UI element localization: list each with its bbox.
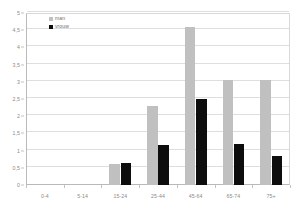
- bar-man-45-64: [185, 27, 196, 185]
- bar-vrouw-65-74: [234, 144, 245, 185]
- y-tick-mark: [21, 13, 24, 14]
- x-axis: 0-45-1415-2425-4445-6465-7475+: [26, 185, 290, 205]
- bar-group: [139, 13, 177, 185]
- bar-vrouw-45-64: [196, 99, 207, 185]
- x-tick-mark: [64, 185, 65, 188]
- y-tick-mark: [21, 116, 24, 117]
- legend-swatch-icon: [49, 25, 53, 29]
- x-tick-label: 45-64: [189, 193, 203, 199]
- y-tick-label: 1: [17, 148, 20, 154]
- y-tick-label: 2: [17, 113, 20, 119]
- y-tick-mark: [21, 81, 24, 82]
- bar-vrouw-25-44: [158, 145, 169, 185]
- y-tick-mark: [21, 30, 24, 31]
- y-tick-mark: [21, 99, 24, 100]
- bar-group: [252, 13, 290, 185]
- bar-man-75+: [260, 80, 271, 185]
- y-axis: 00,511,522,533,544,55: [0, 13, 24, 185]
- x-tick-label: 5-14: [77, 193, 88, 199]
- x-tick-mark: [26, 185, 27, 188]
- y-tick-label: 2,5: [12, 96, 20, 102]
- x-tick-mark: [177, 185, 178, 188]
- bar-group: [177, 13, 215, 185]
- x-tick-mark: [252, 185, 253, 188]
- bar-man-25-44: [147, 106, 158, 185]
- y-tick-mark: [21, 185, 24, 186]
- x-tick-mark: [101, 185, 102, 188]
- x-tick-mark: [290, 185, 291, 188]
- gridline: [27, 11, 289, 12]
- x-tick-label: 0-4: [41, 193, 49, 199]
- y-tick-label: 0,5: [12, 165, 20, 171]
- bars-layer: [26, 13, 290, 185]
- y-tick-label: 0: [17, 182, 20, 188]
- bar-group: [64, 13, 102, 185]
- y-tick-label: 1,5: [12, 130, 20, 136]
- y-tick-label: 3,5: [12, 62, 20, 68]
- bar-man-15-24: [109, 164, 120, 185]
- bar-man-65-74: [223, 80, 234, 185]
- y-tick-label: 3: [17, 79, 20, 85]
- y-tick-mark: [21, 47, 24, 48]
- bar-group: [26, 13, 64, 185]
- bar-vrouw-75+: [272, 156, 283, 185]
- bar-chart: 00,511,522,533,544,55 0-45-1415-2425-444…: [0, 0, 298, 221]
- y-tick-mark: [21, 64, 24, 65]
- y-tick-mark: [21, 133, 24, 134]
- y-tick-mark: [21, 150, 24, 151]
- y-tick-label: 5: [17, 10, 20, 16]
- bar-vrouw-15-24: [121, 163, 132, 185]
- legend-item-vrouw[interactable]: vrouw: [49, 23, 69, 30]
- y-tick-label: 4: [17, 44, 20, 50]
- legend-item-man[interactable]: man: [49, 15, 69, 22]
- y-tick-label: 4,5: [12, 27, 20, 33]
- bar-group: [101, 13, 139, 185]
- x-tick-mark: [215, 185, 216, 188]
- x-tick-mark: [139, 185, 140, 188]
- x-tick-label: 25-44: [151, 193, 165, 199]
- legend-swatch-icon: [49, 17, 53, 21]
- x-tick-label: 15-24: [113, 193, 127, 199]
- legend-label: vrouw: [55, 24, 69, 29]
- x-tick-label: 65-74: [227, 193, 241, 199]
- y-tick-mark: [21, 167, 24, 168]
- bar-group: [215, 13, 253, 185]
- legend: manvrouw: [49, 15, 69, 30]
- x-tick-label: 75+: [267, 193, 276, 199]
- legend-label: man: [55, 16, 65, 21]
